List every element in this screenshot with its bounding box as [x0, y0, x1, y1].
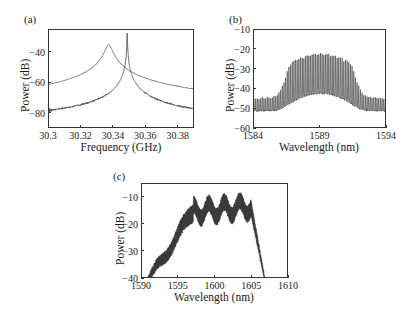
panel-c-xtick-mark — [288, 275, 289, 278]
panel-b-ytick-mark — [253, 68, 256, 69]
panel-a-xtick-label: 30.34 — [102, 130, 125, 141]
panel-b-xtick-mark — [386, 125, 387, 128]
panel-c-yaxis-title: Power (dB) — [114, 212, 126, 265]
panel-a-xtick-label: 30.32 — [69, 130, 92, 141]
panel-c-xtick-label: 1610 — [278, 280, 298, 291]
panel-c-xtick-mark — [214, 275, 215, 278]
panel-a-ytick-label: −40 — [20, 46, 45, 57]
panel-c-xtick-mark — [177, 275, 178, 278]
panel-a-xtick-mark — [177, 125, 178, 128]
panel-a-xaxis-title: Frequency (GHz) — [81, 141, 162, 153]
panel-b-xtick-mark — [319, 125, 320, 128]
panel-c-ytick-mark — [141, 223, 144, 224]
panel-c-xtick-mark — [251, 275, 252, 278]
panel-a-xtick-mark — [80, 125, 81, 128]
panel-c-xtick-label: 1600 — [205, 280, 225, 291]
panel-c-traces — [142, 184, 288, 278]
panel-b-ytick-label: −10 — [225, 24, 250, 35]
panel-b-plot-area — [253, 29, 386, 128]
panel-c-xtick-mark — [141, 275, 142, 278]
panel-a-trace-0 — [49, 44, 194, 89]
panel-b-xaxis-title: Wavelength (nm) — [279, 141, 359, 153]
panel-a-yaxis-title: Power (dB) — [19, 59, 31, 112]
panel-c-xaxis-title: Wavelength (nm) — [174, 291, 254, 303]
panel-c-label: (c) — [113, 170, 125, 182]
panel-b-comb-trace — [254, 53, 386, 111]
figure-container: (a) −40−60−80 30.330.3230.3430.3630.38 F… — [0, 0, 412, 319]
panel-c-spectrum-band — [142, 192, 288, 278]
panel-b-ytick-mark — [253, 108, 256, 109]
panel-b-ytick-mark — [253, 88, 256, 89]
panel-b-xtick-mark — [253, 125, 254, 128]
panel-a-xtick-label: 30.36 — [134, 130, 157, 141]
panel-c-xtick-label: 1605 — [241, 280, 261, 291]
panel-b-traces — [254, 30, 386, 128]
panel-a-ytick-mark — [48, 51, 51, 52]
panel-b-xtick-label: 1589 — [310, 130, 330, 141]
panel-a-trace-1 — [49, 33, 194, 112]
panel-c-ytick-mark — [141, 250, 144, 251]
panel-a-plot-area — [48, 29, 194, 128]
panel-c-plot-area — [141, 183, 288, 278]
panel-b-xtick-label: 1584 — [243, 130, 263, 141]
panel-b-ytick-mark — [253, 48, 256, 49]
panel-a-label: (a) — [24, 13, 36, 25]
panel-c-ytick-mark — [141, 196, 144, 197]
panel-b-ytick-label: −20 — [225, 43, 250, 54]
panel-a-xtick-mark — [112, 125, 113, 128]
panel-a-xtick-label: 30.38 — [167, 130, 190, 141]
panel-a-ytick-mark — [48, 112, 51, 113]
panel-b-yaxis-title: Power (dB) — [224, 59, 236, 112]
panel-a-ytick-mark — [48, 82, 51, 83]
panel-b-xtick-label: 1594 — [376, 130, 396, 141]
panel-c-xtick-label: 1595 — [168, 280, 188, 291]
panel-a-xtick-mark — [145, 125, 146, 128]
panel-a-xtick-label: 30.3 — [39, 130, 57, 141]
panel-b-ytick-mark — [253, 29, 256, 30]
panel-a-xtick-mark — [48, 125, 49, 128]
panel-c-xtick-label: 1590 — [131, 280, 151, 291]
panel-a-traces — [49, 30, 194, 128]
panel-c-ytick-label: −10 — [113, 191, 138, 202]
